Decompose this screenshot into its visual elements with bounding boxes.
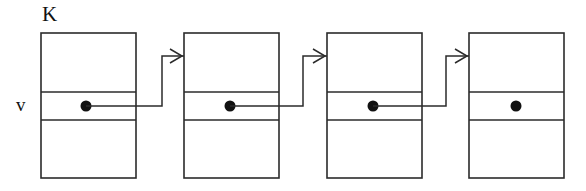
value-label: v — [16, 95, 26, 114]
node-group-4[interactable] — [469, 33, 564, 178]
diagram-canvas: K v — [0, 0, 586, 191]
diagram-vector-layer — [0, 0, 586, 191]
key-label: K — [42, 4, 57, 25]
node-4-pointer-dot[interactable] — [511, 101, 522, 112]
